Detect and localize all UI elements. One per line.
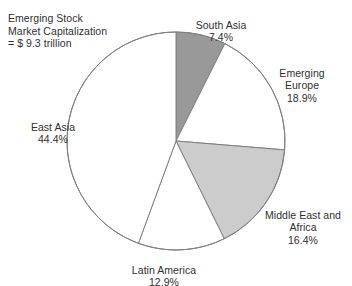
slice-label-latin-america-name: Latin America <box>132 264 196 276</box>
slice-label-middle-east-and-africa: Middle East and Africa 16.4% <box>255 196 351 259</box>
slice-label-south-asia-percent: 7.4% <box>173 31 269 44</box>
pie-chart-figure: Emerging Stock Market Capitalization = $… <box>0 0 352 286</box>
slice-label-south-asia-name: South Asia <box>196 19 247 31</box>
slice-label-emerging-europe: Emerging Europe 18.9% <box>256 54 348 117</box>
slice-label-latin-america: Latin America 12.9% <box>116 251 212 286</box>
slice-label-east-asia: East Asia 44.4% <box>8 108 98 158</box>
slice-label-latin-america-percent: 12.9% <box>116 276 212 286</box>
slice-label-east-asia-name: East Asia <box>31 121 75 133</box>
chart-title: Emerging Stock Market Capitalization = $… <box>8 12 107 50</box>
slice-label-middle-east-and-africa-percent: 16.4% <box>255 234 351 247</box>
slice-label-south-asia: South Asia 7.4% <box>173 6 269 56</box>
slice-label-middle-east-and-africa-name: Middle East and Africa <box>265 209 341 234</box>
slice-label-east-asia-percent: 44.4% <box>8 133 98 146</box>
slice-label-emerging-europe-name: Emerging Europe <box>279 67 324 92</box>
slice-label-emerging-europe-percent: 18.9% <box>256 92 348 105</box>
